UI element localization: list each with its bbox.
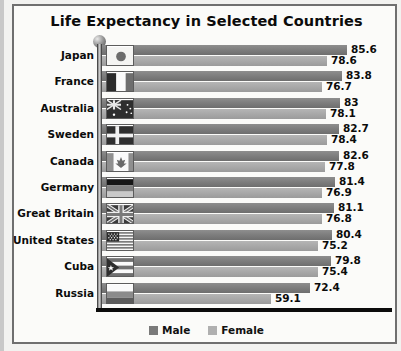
bar-group: 8378.1 <box>102 98 399 122</box>
bar-male <box>102 203 334 213</box>
bar-male <box>102 256 331 266</box>
chart-row: Germany81.476.9 <box>14 176 399 202</box>
legend-label-male: Male <box>162 324 190 336</box>
bar-group: 82.677.8 <box>102 151 399 175</box>
value-label-female: 75.4 <box>322 265 348 277</box>
country-label: Germany <box>0 181 94 193</box>
value-label-male: 72.4 <box>314 281 340 293</box>
bar-female <box>102 162 325 172</box>
chart-row: Great Britain81.176.8 <box>14 202 399 228</box>
flag-japan-icon <box>106 45 134 66</box>
flag-sweden-icon <box>106 124 134 145</box>
legend-swatch-male-icon <box>149 326 158 335</box>
chart-row: United States80.475.2 <box>14 229 399 255</box>
bar-male <box>102 45 347 55</box>
bar-group: 81.176.8 <box>102 203 399 227</box>
chart-legend: Male Female <box>14 324 399 336</box>
axis-baseline <box>96 308 392 312</box>
bar-group: 72.459.1 <box>102 283 399 307</box>
chart-row: Australia8378.1 <box>14 97 399 123</box>
legend-label-female: Female <box>221 324 264 336</box>
value-label-female: 59.1 <box>275 292 301 304</box>
bar-female <box>102 267 318 277</box>
bar-rows: Japan85.678.6France83.876.7Australia8378… <box>14 44 399 308</box>
bar-male <box>102 151 339 161</box>
chart-row: Canada82.677.8 <box>14 150 399 176</box>
flag-united-states-icon <box>106 230 134 251</box>
country-label: Cuba <box>0 260 94 272</box>
bar-female <box>102 109 326 119</box>
value-label-female: 76.7 <box>326 80 352 92</box>
value-label-female: 78.4 <box>331 133 357 145</box>
bar-male <box>102 177 335 187</box>
country-label: Australia <box>0 102 94 114</box>
bar-group: 81.476.9 <box>102 177 399 201</box>
flag-germany-icon <box>106 177 134 198</box>
country-label: Russia <box>0 287 94 299</box>
bar-female <box>102 56 327 66</box>
bar-group: 85.678.6 <box>102 45 399 69</box>
country-label: Great Britain <box>0 207 94 219</box>
screenshot-background: Life Expectancy in Selected Countries Ja… <box>0 0 401 351</box>
country-label: Japan <box>0 49 94 61</box>
bar-group: 83.876.7 <box>102 71 399 95</box>
country-label: France <box>0 75 94 87</box>
bar-female <box>102 188 322 198</box>
chart-row: Japan85.678.6 <box>14 44 399 70</box>
flag-france-icon <box>106 71 134 92</box>
legend-item-female: Female <box>208 324 264 336</box>
value-label-female: 75.2 <box>322 239 348 251</box>
chart-frame: Life Expectancy in Selected Countries Ja… <box>12 4 397 344</box>
chart-row: Sweden82.778.4 <box>14 123 399 149</box>
bar-female <box>102 241 318 251</box>
bar-group: 79.875.4 <box>102 256 399 280</box>
flag-australia-icon <box>106 98 134 119</box>
chart-row: Cuba79.875.4 <box>14 255 399 281</box>
chart-row: France83.876.7 <box>14 70 399 96</box>
legend-item-male: Male <box>149 324 190 336</box>
legend-swatch-female-icon <box>208 326 217 335</box>
flag-cuba-icon <box>106 256 134 277</box>
plot-area: Japan85.678.6France83.876.7Australia8378… <box>14 35 399 317</box>
value-label-female: 77.8 <box>329 160 355 172</box>
country-label: Canada <box>0 155 94 167</box>
chart-row: Russia72.459.1 <box>14 282 399 308</box>
value-label-female: 78.6 <box>331 54 357 66</box>
bar-group: 82.778.4 <box>102 124 399 148</box>
bar-male <box>102 71 342 81</box>
bar-group: 80.475.2 <box>102 230 399 254</box>
chart-title: Life Expectancy in Selected Countries <box>14 13 399 29</box>
bar-male <box>102 230 332 240</box>
flag-great-britain-icon <box>106 203 134 224</box>
flag-canada-icon <box>106 151 134 172</box>
bar-female <box>102 214 322 224</box>
value-label-female: 78.1 <box>330 107 356 119</box>
value-label-female: 76.8 <box>326 212 352 224</box>
bar-male <box>102 98 340 108</box>
bar-female <box>102 135 327 145</box>
bar-female <box>102 82 322 92</box>
country-label: United States <box>0 234 94 246</box>
bar-male <box>102 124 339 134</box>
flag-russia-icon <box>106 283 134 304</box>
country-label: Sweden <box>0 128 94 140</box>
value-label-female: 76.9 <box>326 186 352 198</box>
